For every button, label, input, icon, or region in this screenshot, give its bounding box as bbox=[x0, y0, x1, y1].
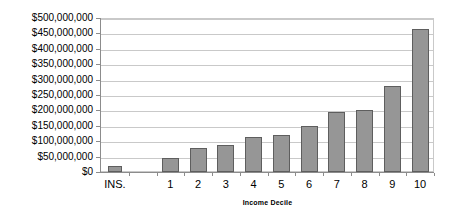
x-axis-tick bbox=[406, 173, 407, 176]
bar-chart: $0$50,000,000$100,000,000$150,000,000$20… bbox=[0, 0, 459, 222]
x-axis-tick bbox=[129, 173, 130, 176]
x-axis-tick-label: 10 bbox=[406, 178, 434, 191]
y-axis-tick-label: $150,000,000 bbox=[0, 121, 93, 131]
bar bbox=[356, 110, 373, 172]
bar-series bbox=[101, 18, 434, 172]
bar bbox=[384, 86, 401, 172]
x-axis-tick bbox=[379, 173, 380, 176]
bar bbox=[412, 29, 429, 172]
x-axis-tick bbox=[268, 173, 269, 176]
bar bbox=[245, 137, 262, 172]
x-axis-tick-label: 2 bbox=[184, 178, 212, 191]
x-axis-tick bbox=[295, 173, 296, 176]
x-axis-tick-label: 7 bbox=[323, 178, 351, 191]
y-axis-tick-label: $350,000,000 bbox=[0, 59, 93, 69]
x-axis-tick-label: INS. bbox=[101, 178, 129, 191]
y-axis-tick-label: $500,000,000 bbox=[0, 13, 93, 23]
x-axis-tick bbox=[434, 173, 435, 176]
x-axis-tick bbox=[184, 173, 185, 176]
x-axis-tick-label: 8 bbox=[351, 178, 379, 191]
bar bbox=[301, 126, 318, 172]
x-axis-tick bbox=[240, 173, 241, 176]
y-axis-tick-label: $200,000,000 bbox=[0, 105, 93, 115]
x-axis-tick-label: 9 bbox=[379, 178, 407, 191]
y-axis-tick-label: $0 bbox=[0, 167, 93, 177]
x-axis-tick-label: 5 bbox=[268, 178, 296, 191]
bar bbox=[162, 158, 179, 172]
y-axis-tick-label: $100,000,000 bbox=[0, 136, 93, 146]
x-axis-tick bbox=[323, 173, 324, 176]
y-axis-labels: $0$50,000,000$100,000,000$150,000,000$20… bbox=[0, 18, 97, 172]
bar bbox=[273, 135, 290, 172]
x-axis-tick bbox=[212, 173, 213, 176]
bar bbox=[217, 145, 234, 172]
y-axis-tick-label: $250,000,000 bbox=[0, 90, 93, 100]
x-axis-tick-label: 1 bbox=[157, 178, 185, 191]
x-axis-tick-label: 3 bbox=[212, 178, 240, 191]
y-axis-tick-label: $50,000,000 bbox=[0, 152, 93, 162]
x-axis-labels: INS.12345678910 bbox=[101, 178, 434, 192]
x-axis-tick-label: 6 bbox=[295, 178, 323, 191]
x-axis-tick-label: 4 bbox=[240, 178, 268, 191]
bar bbox=[108, 166, 122, 172]
y-axis-tick-label: $450,000,000 bbox=[0, 28, 93, 38]
y-axis-tick-label: $400,000,000 bbox=[0, 44, 93, 54]
x-axis-tick bbox=[157, 173, 158, 176]
x-axis-tick bbox=[351, 173, 352, 176]
y-axis-tick-label: $300,000,000 bbox=[0, 75, 93, 85]
bar bbox=[190, 148, 207, 172]
bar bbox=[328, 112, 345, 172]
x-axis-title: Income Decile bbox=[101, 199, 434, 206]
